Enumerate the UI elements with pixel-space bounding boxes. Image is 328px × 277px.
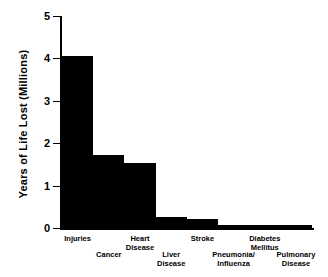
y-tick-mark — [53, 101, 61, 102]
category-label: Liver Disease — [142, 250, 200, 268]
y-tick-label: 2 — [34, 138, 50, 149]
y-tick-label: 1 — [34, 181, 50, 192]
y-tick-mark — [53, 228, 61, 229]
category-label: Pulmonary Disease — [267, 250, 325, 268]
y-tick-label: 4 — [34, 53, 50, 64]
category-label: Stroke — [173, 234, 231, 243]
bar — [156, 217, 187, 228]
bar-chart: Years of Life Lost (Millions) 012345 Inj… — [0, 0, 328, 277]
y-tick-mark — [53, 186, 61, 187]
y-tick-mark — [53, 16, 61, 17]
category-label: Pneumonia/ Influenza — [205, 250, 263, 268]
bar — [280, 225, 311, 228]
y-tick-label: 3 — [34, 96, 50, 107]
category-label: Injuries — [49, 234, 107, 243]
bar — [218, 225, 249, 228]
bar — [249, 225, 280, 228]
bar — [124, 163, 155, 228]
y-axis-title: Years of Life Lost (Millions) — [17, 24, 29, 224]
bar — [62, 56, 93, 228]
y-tick-mark — [53, 143, 61, 144]
y-tick-label: 5 — [34, 11, 50, 22]
y-tick-mark — [53, 58, 61, 59]
bar — [93, 155, 124, 228]
y-tick-label: 0 — [34, 223, 50, 234]
bar-series — [62, 16, 312, 228]
bar — [187, 219, 218, 228]
x-axis-line — [60, 228, 314, 230]
